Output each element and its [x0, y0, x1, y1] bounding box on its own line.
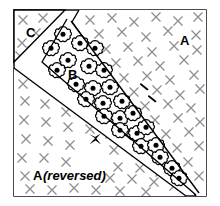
label-C: C	[26, 25, 36, 40]
label-A-reversed: A	[33, 168, 43, 183]
label-A-reversed-group: A (reversed)	[33, 168, 106, 183]
label-A-top: A	[180, 33, 190, 48]
figure-canvas: C A B A (reversed)	[0, 0, 220, 206]
label-B: B	[68, 67, 77, 82]
label-A-reversed-note: (reversed)	[43, 168, 106, 183]
diagram-svg: C A B A (reversed)	[0, 0, 220, 206]
